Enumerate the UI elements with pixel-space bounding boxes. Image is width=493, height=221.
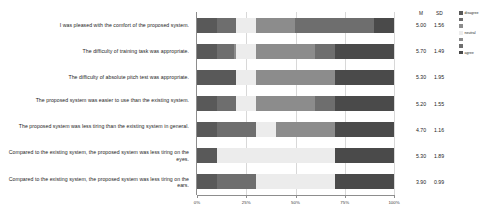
bar-segment bbox=[295, 18, 374, 33]
bar-segment bbox=[335, 70, 394, 85]
legend-item[interactable] bbox=[459, 24, 465, 28]
stats-sd: 1.89 bbox=[434, 153, 444, 159]
bar-segment bbox=[335, 148, 394, 163]
x-tick bbox=[394, 195, 395, 198]
x-tick-label: 25% bbox=[242, 200, 251, 205]
stats-mean: 5.00 bbox=[416, 22, 426, 28]
legend-swatch-icon bbox=[459, 18, 463, 22]
legend-item[interactable]: disagree bbox=[459, 11, 478, 15]
bar-segment bbox=[217, 174, 256, 189]
statement-label: Compared to the existing system, the pro… bbox=[0, 176, 189, 189]
x-tick-label: 0% bbox=[194, 200, 200, 205]
bar-segment bbox=[256, 174, 335, 189]
x-tick-label: 50% bbox=[291, 200, 300, 205]
x-tick bbox=[296, 195, 297, 198]
x-tick bbox=[246, 195, 247, 198]
statement-label: The difficulty of training task was appr… bbox=[0, 48, 189, 54]
legend-swatch-icon bbox=[459, 31, 463, 35]
statement-label: The proposed system was easier to use th… bbox=[0, 97, 189, 103]
legend-swatch-icon bbox=[459, 51, 463, 55]
bar-segment bbox=[197, 70, 236, 85]
stats-sd: 0.99 bbox=[434, 179, 444, 185]
stats-header-sd: SD bbox=[436, 11, 443, 16]
legend-item[interactable] bbox=[459, 37, 465, 41]
legend-swatch-icon bbox=[459, 24, 463, 28]
bar-segment bbox=[315, 44, 335, 59]
x-tick bbox=[197, 195, 198, 198]
statement-label: The proposed system was less tiring than… bbox=[0, 123, 189, 129]
stats-mean: 4.70 bbox=[416, 127, 426, 133]
bar-segment bbox=[197, 96, 217, 111]
bar-segment bbox=[217, 18, 237, 33]
stats-sd: 1.55 bbox=[434, 101, 444, 107]
legend-label: disagree bbox=[465, 11, 479, 15]
bar-row bbox=[197, 70, 394, 85]
stats-mean: 5.30 bbox=[416, 153, 426, 159]
bar-row bbox=[197, 122, 394, 137]
statement-label: I was pleased with the comfort of the pr… bbox=[0, 22, 189, 28]
bar-segment bbox=[315, 96, 335, 111]
x-axis: 0%25%50%75%100% bbox=[197, 195, 394, 211]
bar-segment bbox=[374, 18, 394, 33]
bar-row bbox=[197, 96, 394, 111]
stats-header-mean: M bbox=[419, 11, 423, 16]
bar-segment bbox=[197, 44, 217, 59]
stats-sd: 1.16 bbox=[434, 127, 444, 133]
bar-segment bbox=[256, 44, 315, 59]
stats-mean: 5.20 bbox=[416, 101, 426, 107]
x-tick-label: 100% bbox=[388, 200, 399, 205]
legend-label: agree bbox=[465, 51, 474, 55]
x-tick-label: 75% bbox=[340, 200, 349, 205]
bar-segment bbox=[197, 18, 217, 33]
legend-swatch-icon bbox=[459, 11, 463, 15]
bar-segment bbox=[256, 70, 335, 85]
bar-row bbox=[197, 44, 394, 59]
bar-segment bbox=[335, 44, 394, 59]
bar-segment bbox=[256, 18, 295, 33]
statement-label: Compared to the existing system, the pro… bbox=[0, 149, 189, 162]
bar-segment bbox=[217, 44, 235, 59]
bar-segment bbox=[197, 122, 217, 137]
stats-mean: 5.30 bbox=[416, 74, 426, 80]
stats-sd: 1.49 bbox=[434, 48, 444, 54]
legend-item[interactable] bbox=[459, 44, 465, 48]
likert-stacked-bar-chart: I was pleased with the comfort of the pr… bbox=[0, 0, 493, 221]
bar-segment bbox=[217, 122, 256, 137]
gridline bbox=[394, 12, 395, 195]
bar-segment bbox=[236, 70, 256, 85]
legend-item[interactable]: agree bbox=[459, 51, 474, 55]
legend-item[interactable] bbox=[459, 18, 465, 22]
plot-area bbox=[197, 12, 394, 195]
bar-row bbox=[197, 18, 394, 33]
bar-segment bbox=[256, 122, 276, 137]
bar-segment bbox=[236, 44, 256, 59]
stats-mean: 5.70 bbox=[416, 48, 426, 54]
bar-segment bbox=[236, 96, 256, 111]
bar-segment bbox=[276, 122, 335, 137]
bar-segment bbox=[335, 174, 394, 189]
bar-segment bbox=[236, 18, 256, 33]
stats-mean: 3.90 bbox=[416, 179, 426, 185]
statement-label: The difficulty of absolute pitch test wa… bbox=[0, 74, 189, 80]
stats-sd: 1.95 bbox=[434, 74, 444, 80]
legend-label: neutral bbox=[465, 31, 476, 35]
x-tick bbox=[345, 195, 346, 198]
bar-segment bbox=[335, 122, 394, 137]
legend-swatch-icon bbox=[459, 44, 463, 48]
bar-segment bbox=[217, 148, 335, 163]
bar-segment bbox=[197, 148, 217, 163]
legend-swatch-icon bbox=[459, 38, 463, 42]
bar-segment bbox=[335, 96, 394, 111]
bar-row bbox=[197, 174, 394, 189]
stats-sd: 1.56 bbox=[434, 22, 444, 28]
bar-row bbox=[197, 148, 394, 163]
bar-segment bbox=[256, 96, 315, 111]
bar-segment bbox=[217, 96, 237, 111]
legend-item[interactable]: neutral bbox=[459, 31, 476, 35]
bar-segment bbox=[197, 174, 217, 189]
